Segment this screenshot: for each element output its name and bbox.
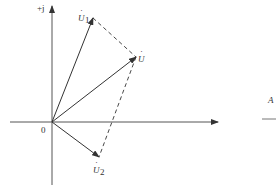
dashed-line-u-u2 bbox=[99, 57, 136, 157]
side-fragment-label: A bbox=[267, 95, 274, 105]
svg-text:·: · bbox=[80, 5, 83, 15]
origin-label: 0 bbox=[41, 125, 46, 135]
label-u1: U · 1 bbox=[78, 5, 90, 25]
imag-axis-label: +j bbox=[37, 3, 45, 13]
phasor-u2 bbox=[52, 122, 99, 157]
svg-text:1: 1 bbox=[85, 15, 90, 25]
svg-text:·: · bbox=[95, 157, 98, 167]
label-u2: U · 2 bbox=[93, 157, 105, 177]
dashed-line-u1-u bbox=[93, 18, 136, 57]
label-u: U · bbox=[138, 46, 145, 64]
phasor-diagram: +j 0 U · 1 U · U · 2 A bbox=[0, 0, 276, 190]
svg-text:2: 2 bbox=[100, 167, 105, 177]
svg-text:·: · bbox=[140, 46, 143, 56]
